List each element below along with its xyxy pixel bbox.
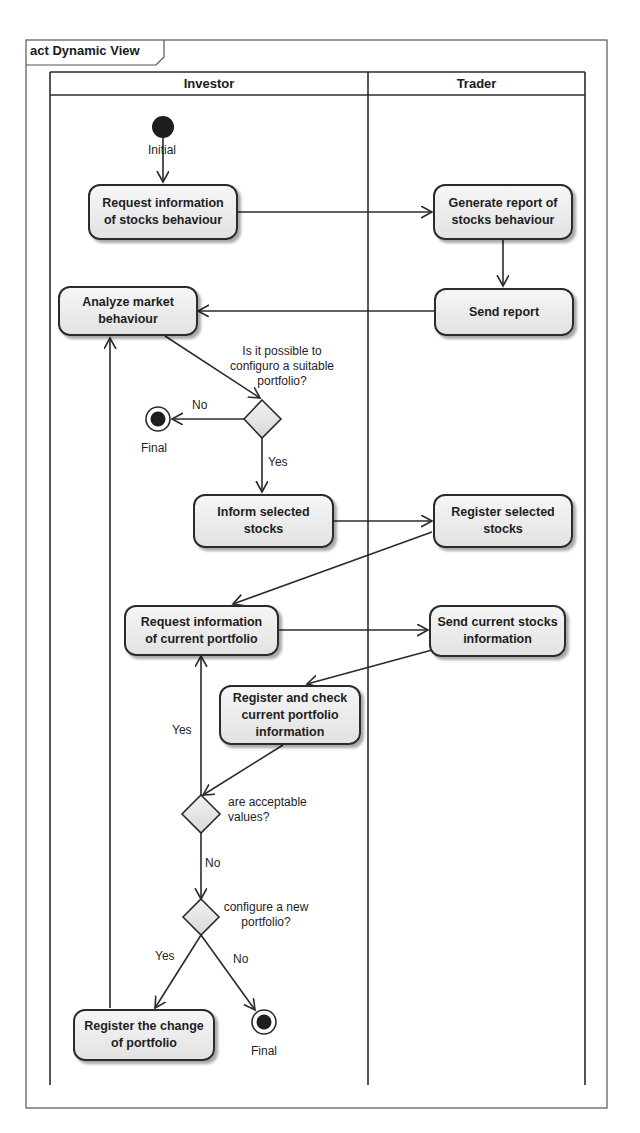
action-request-stocks-info[interactable]: Request informationof stocks behaviour bbox=[88, 184, 238, 240]
guard-new-portfolio-yes: Yes bbox=[155, 949, 175, 964]
action-label: Send current stocks bbox=[437, 614, 557, 631]
action-label: current portfolio bbox=[233, 707, 348, 724]
action-label: Register and check bbox=[233, 690, 348, 707]
action-label: information bbox=[437, 631, 557, 648]
action-label: Analyze market bbox=[82, 294, 174, 311]
initial-node bbox=[152, 116, 174, 138]
action-label: of portfolio bbox=[84, 1035, 203, 1052]
decision-label-portfolio: Is it possible to configuro a suitable p… bbox=[222, 344, 342, 389]
action-register-change[interactable]: Register the changeof portfolio bbox=[73, 1009, 215, 1061]
decision-label-new-portfolio: configure a new portfolio? bbox=[216, 900, 316, 930]
decision-diamond-portfolio bbox=[244, 400, 281, 438]
guard-portfolio-yes: Yes bbox=[268, 455, 288, 470]
action-label: Request information bbox=[141, 614, 263, 631]
initial-label: Initial bbox=[148, 143, 176, 158]
action-label: information bbox=[233, 724, 348, 741]
action-analyze-market[interactable]: Analyze marketbehaviour bbox=[58, 286, 198, 336]
diagram-canvas bbox=[0, 0, 640, 1133]
action-label: Generate report of bbox=[448, 195, 557, 212]
action-inform-selected[interactable]: Inform selectedstocks bbox=[193, 494, 334, 548]
action-generate-report[interactable]: Generate report ofstocks behaviour bbox=[433, 184, 573, 240]
action-label: behaviour bbox=[82, 311, 174, 328]
decision-label-acceptable: are acceptable values? bbox=[228, 795, 307, 825]
decision-label-line: values? bbox=[228, 810, 307, 825]
guard-new-portfolio-no: No bbox=[233, 952, 248, 967]
guard-acceptable-yes: Yes bbox=[172, 723, 192, 738]
decision-label-line: configuro a suitable bbox=[222, 359, 342, 374]
action-register-check[interactable]: Register and checkcurrent portfolioinfor… bbox=[219, 685, 361, 745]
action-label: Register selected bbox=[451, 504, 555, 521]
action-label: Send report bbox=[469, 304, 539, 321]
final-node-2 bbox=[252, 1010, 276, 1034]
decision-label-line: configure a new bbox=[216, 900, 316, 915]
decision-diamond-new-portfolio bbox=[183, 899, 219, 935]
action-label: stocks behaviour bbox=[448, 212, 557, 229]
decision-label-line: portfolio? bbox=[222, 374, 342, 389]
decision-diamond-acceptable bbox=[182, 795, 220, 833]
decision-label-line: portfolio? bbox=[216, 915, 316, 930]
guard-acceptable-no: No bbox=[205, 856, 220, 871]
final-node-1 bbox=[146, 407, 170, 431]
action-label: stocks bbox=[217, 521, 309, 538]
decision-label-line: Is it possible to bbox=[222, 344, 342, 359]
guard-portfolio-no: No bbox=[192, 398, 207, 413]
action-label: stocks bbox=[451, 521, 555, 538]
action-label: of current portfolio bbox=[141, 631, 263, 648]
final-label-2: Final bbox=[251, 1044, 277, 1059]
activity-diagram: act Dynamic View Investor Trader Initial… bbox=[0, 0, 640, 1133]
action-send-current-stocks[interactable]: Send current stocksinformation bbox=[429, 605, 566, 657]
frame-title: act Dynamic View bbox=[30, 43, 140, 58]
action-request-current-portfolio[interactable]: Request informationof current portfolio bbox=[124, 605, 279, 656]
action-label: Request information bbox=[102, 195, 224, 212]
action-label: of stocks behaviour bbox=[102, 212, 224, 229]
action-send-report[interactable]: Send report bbox=[434, 288, 574, 336]
action-label: Register the change bbox=[84, 1018, 203, 1035]
action-label: Inform selected bbox=[217, 504, 309, 521]
action-register-selected[interactable]: Register selectedstocks bbox=[433, 494, 573, 548]
lane-header-investor: Investor bbox=[50, 76, 368, 91]
decision-label-line: are acceptable bbox=[228, 795, 307, 810]
final-label-1: Final bbox=[141, 441, 167, 456]
lane-header-trader: Trader bbox=[368, 76, 585, 91]
